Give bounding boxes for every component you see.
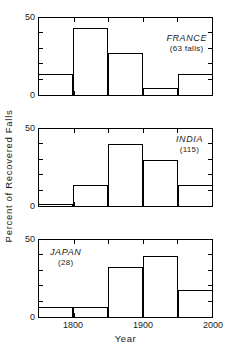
x-tick-label: 1900: [133, 321, 153, 330]
panel-india: 50 0 INDIA (115): [38, 128, 213, 207]
y-axis-title: Percent of Recovered Falls: [0, 0, 16, 352]
y-tick-label-max: 50: [25, 13, 35, 22]
y-tick-label-min: 0: [30, 202, 35, 211]
annotation-france: FRANCE (63 falls): [166, 33, 207, 54]
panel-japan: 50 0 JAPAN (28) 180019002000: [38, 239, 213, 318]
country-name: INDIA: [176, 134, 203, 145]
histogram-bar: [73, 185, 108, 207]
y-tick-label-max: 50: [25, 235, 35, 244]
x-axis-title: Year: [38, 333, 213, 344]
histogram-bar: [178, 74, 213, 96]
meteorite-falls-histogram-figure: Percent of Recovered Falls 50 0 FRANCE (…: [0, 0, 235, 352]
histogram-bar: [143, 160, 178, 207]
histogram-bar: [178, 290, 213, 318]
histogram-bar: [108, 53, 143, 96]
bars-france: [38, 17, 213, 96]
fall-count: (115): [176, 145, 203, 155]
fall-count: (63 falls): [166, 44, 207, 54]
annotation-japan: JAPAN (28): [50, 247, 81, 268]
histogram-bar: [38, 307, 73, 318]
histogram-bar: [73, 28, 108, 96]
panel-france: 50 0 FRANCE (63 falls): [38, 17, 213, 96]
annotation-india: INDIA (115): [176, 134, 203, 155]
histogram-bar: [143, 88, 178, 96]
y-tick-label-min: 0: [30, 313, 35, 322]
histogram-bar: [108, 267, 143, 318]
fall-count: (28): [50, 258, 81, 268]
histogram-bar: [143, 256, 178, 318]
histogram-bar: [38, 74, 73, 96]
histogram-bar: [108, 144, 143, 207]
x-tick-label: 2000: [203, 321, 223, 330]
y-tick-label-min: 0: [30, 91, 35, 100]
country-name: JAPAN: [50, 247, 81, 258]
country-name: FRANCE: [166, 33, 207, 44]
y-tick-label-max: 50: [25, 124, 35, 133]
histogram-bar: [38, 204, 73, 207]
histogram-bar: [178, 185, 213, 207]
x-tick-label: 1800: [63, 321, 83, 330]
histogram-bar: [73, 307, 108, 318]
